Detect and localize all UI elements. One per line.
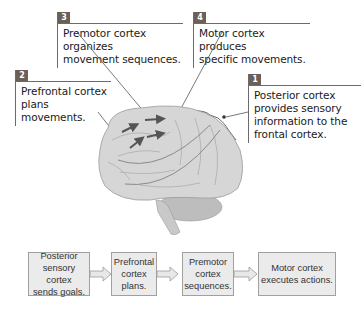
- flow-step-premotor: Premotor cortex sequences.: [182, 252, 234, 296]
- flow-step-posterior: Posterior sensory cortex sends goals.: [28, 252, 90, 296]
- flow-arrow-icon: [157, 266, 179, 282]
- flow-step-prefrontal: Prefrontal cortex plans.: [111, 252, 157, 296]
- flow-arrow-icon: [234, 266, 258, 282]
- brain-icon: [0, 0, 360, 240]
- brain-illustration: [0, 0, 360, 240]
- flow-step-motor: Motor cortex executes actions.: [258, 252, 336, 296]
- flow-arrow-icon: [90, 266, 112, 282]
